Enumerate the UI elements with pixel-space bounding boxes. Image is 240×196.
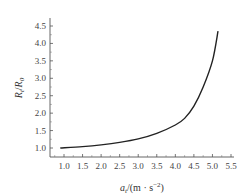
axes xyxy=(50,18,234,157)
x-tick-label: 4.5 xyxy=(188,161,200,171)
x-tick-label: 3.0 xyxy=(133,161,145,171)
line-chart: 1.01.52.02.53.03.54.04.51.01.52.02.53.03… xyxy=(0,0,240,196)
x-tick-label: 1.5 xyxy=(77,161,89,171)
x-tick-label: 5.0 xyxy=(207,161,219,171)
axis-labels: 1.01.52.02.53.03.54.04.51.01.52.02.53.03… xyxy=(13,21,237,195)
y-tick-label: 1.5 xyxy=(35,126,47,136)
y-tick-label: 4.0 xyxy=(35,38,47,48)
x-tick-label: 2.0 xyxy=(95,161,107,171)
x-tick-label: 1.0 xyxy=(58,161,70,171)
x-tick-label: 5.5 xyxy=(225,161,237,171)
series-line xyxy=(60,31,218,148)
y-tick-label: 2.5 xyxy=(35,91,47,101)
y-tick-label: 2.0 xyxy=(35,108,47,118)
x-tick-label: 2.5 xyxy=(114,161,126,171)
y-tick-label: 4.5 xyxy=(35,21,47,31)
x-tick-label: 3.5 xyxy=(151,161,163,171)
y-tick-label: 3.0 xyxy=(35,73,47,83)
data-series xyxy=(60,31,218,148)
x-axis-title: at/(m · s−2) xyxy=(120,181,164,195)
x-tick-label: 4.0 xyxy=(170,161,182,171)
y-axis-title: Rt/R0 xyxy=(13,77,26,99)
y-tick-label: 1.0 xyxy=(35,143,47,153)
y-tick-label: 3.5 xyxy=(35,56,47,66)
